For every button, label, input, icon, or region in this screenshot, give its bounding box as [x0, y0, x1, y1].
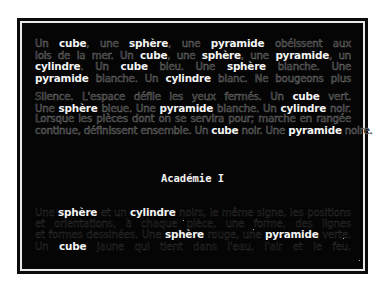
- faint-text: verte.: [319, 229, 351, 240]
- faint-text: obéissent aux: [264, 38, 351, 49]
- faint-text: et formes dessinées. Une: [35, 229, 165, 240]
- faint-text: , un: [329, 50, 351, 61]
- faint-text: rouge, une: [204, 229, 265, 240]
- faint-text: blanche. Un: [89, 73, 166, 84]
- highlighted-word: sphère: [129, 37, 168, 49]
- faint-text: et orientations, à chaque pièce, une for…: [35, 218, 351, 229]
- highlighted-word: pyramide: [159, 102, 213, 114]
- highlighted-word: cylindre: [130, 206, 175, 218]
- faint-text: Un: [35, 38, 59, 49]
- paragraph-1: Un cube, une sphère, une pyramide obéiss…: [35, 38, 351, 84]
- faint-text: jaune qui tient dans l'eau, l'air et le …: [86, 241, 351, 252]
- faint-text: bleue. Une: [98, 103, 160, 114]
- faint-text: Une: [35, 207, 58, 218]
- faint-text: bleu. Une: [148, 61, 227, 72]
- highlighted-word: cylindre: [165, 72, 210, 84]
- text-line: lois de la mer. Un cube, une sphère, une…: [35, 50, 351, 62]
- faint-text: et un: [97, 207, 130, 218]
- highlighted-word: sphère: [59, 102, 98, 114]
- faint-text: . Un: [80, 61, 120, 72]
- faint-text: noir.: [326, 103, 351, 114]
- speck: [253, 229, 254, 230]
- paragraph-3: Une sphère et un cylindre noirs, le même…: [35, 207, 351, 252]
- highlighted-word: cylindre: [281, 102, 326, 114]
- faint-text: blanc. Ne bougeons plus: [211, 73, 351, 84]
- text-screen: Un cube, une sphère, une pyramide obéiss…: [23, 24, 362, 268]
- highlighted-word: cube: [140, 49, 167, 61]
- highlighted-word: cylindre: [35, 60, 80, 72]
- faint-text: lois de la mer. Un: [35, 50, 140, 61]
- speck: [343, 238, 344, 239]
- faint-text: noirs, le même signe, les positions: [176, 207, 351, 218]
- highlighted-word: pyramide: [265, 228, 319, 240]
- faint-text: Silence. L'espace défile les yeux fermés…: [35, 91, 292, 102]
- speck: [359, 260, 360, 261]
- highlighted-word: cube: [211, 124, 238, 136]
- faint-text: , une: [86, 38, 129, 49]
- paragraph-2: Silence. L'espace défile les yeux fermés…: [35, 91, 351, 136]
- highlighted-word: cube: [292, 90, 319, 102]
- highlighted-word: pyramide: [275, 49, 329, 61]
- faint-text: Un: [35, 241, 59, 252]
- text-line: pyramide blanche. Un cylindre blanc. Ne …: [35, 73, 351, 85]
- text-line: continue, définissent ensemble. Un cube …: [35, 125, 351, 137]
- page-title: Académie I: [23, 172, 362, 184]
- faint-text: noir. Une: [238, 125, 288, 136]
- highlighted-word: cube: [121, 60, 148, 72]
- faint-text: Lorsque les pièces dont on se servira po…: [35, 113, 351, 124]
- text-line: Un cube jaune qui tient dans l'eau, l'ai…: [35, 241, 351, 253]
- faint-text: , une: [167, 50, 202, 61]
- highlighted-word: cube: [59, 37, 86, 49]
- highlighted-word: sphère: [165, 228, 204, 240]
- highlighted-word: pyramide: [35, 72, 89, 84]
- highlighted-word: pyramide: [288, 124, 342, 136]
- speck: [183, 220, 184, 221]
- highlighted-word: sphère: [202, 49, 241, 61]
- faint-text: vert.: [320, 91, 351, 102]
- highlighted-word: sphère: [58, 206, 97, 218]
- faint-text: blanche. Une: [266, 61, 351, 72]
- faint-text: , une: [168, 38, 211, 49]
- faint-text: , une: [241, 50, 276, 61]
- highlighted-word: pyramide: [211, 37, 265, 49]
- highlighted-word: cube: [59, 240, 86, 252]
- faint-text: Une: [35, 103, 59, 114]
- faint-text: continue, définissent ensemble. Un: [35, 125, 211, 136]
- highlighted-word: sphère: [227, 60, 266, 72]
- faint-text: blanche. Un: [213, 103, 280, 114]
- faint-text: noire.: [342, 125, 373, 136]
